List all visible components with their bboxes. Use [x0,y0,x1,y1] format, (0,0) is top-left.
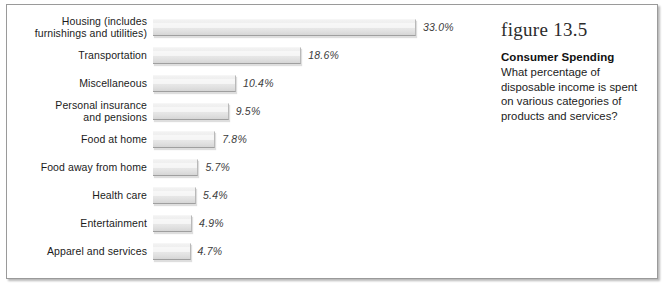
bar-value-label: 33.0% [423,21,454,33]
bar-area: 10.4% [153,69,485,97]
category-label: Housing (includes furnishings and utilit… [7,15,153,39]
bar-chart-rows: Housing (includes furnishings and utilit… [7,13,485,265]
bar-wrap: 5.7% [153,159,230,176]
bar-chart-row: Health care5.4% [7,181,485,209]
bar-area: 5.4% [153,181,485,209]
bar-value-label: 10.4% [243,77,274,89]
bar-chart-row: Food at home7.8% [7,125,485,153]
bar-value-label: 4.7% [198,245,223,257]
bar-area: 7.8% [153,125,485,153]
bar-area: 33.0% [153,13,485,41]
bar [153,47,301,64]
category-label: Transportation [7,49,153,61]
bar-chart-row: Personal insurance and pensions9.5% [7,97,485,125]
bar-value-label: 5.7% [205,161,230,173]
figure-inner: Housing (includes furnishings and utilit… [7,5,657,278]
bar-chart-row: Food away from home5.7% [7,153,485,181]
bar [153,159,198,176]
figure-container: Housing (includes furnishings and utilit… [0,0,667,288]
bar-wrap: 5.4% [153,187,228,204]
bar-chart: Housing (includes furnishings and utilit… [7,5,485,278]
bar [153,215,192,232]
caption-panel: figure 13.5 Consumer Spending What perce… [485,5,657,278]
bar [153,103,229,120]
bar [153,19,416,36]
category-label: Personal insurance and pensions [7,99,153,123]
bar-chart-row: Miscellaneous10.4% [7,69,485,97]
bar-wrap: 7.8% [153,131,247,148]
figure-frame: Housing (includes furnishings and utilit… [6,4,658,279]
bar-wrap: 9.5% [153,103,260,120]
figure-title: Consumer Spending [501,50,643,64]
bar-area: 4.9% [153,209,485,237]
bar-chart-row: Housing (includes furnishings and utilit… [7,13,485,41]
bar [153,75,236,92]
bar-chart-row: Entertainment4.9% [7,209,485,237]
category-label: Health care [7,189,153,201]
bar-value-label: 4.9% [199,217,224,229]
category-label: Apparel and services [7,245,153,257]
category-label: Food away from home [7,161,153,173]
bar-wrap: 33.0% [153,19,454,36]
bar-area: 4.7% [153,237,485,265]
bar [153,131,215,148]
category-label: Food at home [7,133,153,145]
category-label: Miscellaneous [7,77,153,89]
bar [153,243,191,260]
bar-area: 5.7% [153,153,485,181]
bar-value-label: 9.5% [236,105,261,117]
bar-value-label: 7.8% [222,133,247,145]
bar-value-label: 5.4% [203,189,228,201]
bar-wrap: 10.4% [153,75,274,92]
figure-number: figure 13.5 [501,19,643,41]
bar-chart-row: Transportation18.6% [7,41,485,69]
bar [153,187,196,204]
bar-wrap: 4.7% [153,243,222,260]
bar-area: 9.5% [153,97,485,125]
bar-wrap: 18.6% [153,47,339,64]
bar-chart-row: Apparel and services4.7% [7,237,485,265]
bar-value-label: 18.6% [308,49,339,61]
bar-area: 18.6% [153,41,485,69]
figure-description: What percentage of disposable income is … [501,65,643,123]
bar-wrap: 4.9% [153,215,224,232]
category-label: Entertainment [7,217,153,229]
